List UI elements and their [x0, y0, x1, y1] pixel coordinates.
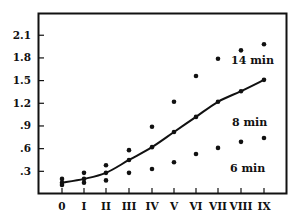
- data-point: [172, 99, 177, 104]
- data-point: [262, 42, 267, 47]
- data-point: [127, 171, 132, 176]
- x-tick-label: II: [101, 200, 111, 212]
- x-tick-label: 0: [58, 200, 65, 212]
- data-point: [150, 167, 155, 172]
- data-point: [104, 163, 109, 168]
- y-tick-label: 2.1: [13, 29, 31, 41]
- series-label: 6 min: [230, 162, 265, 175]
- data-point: [172, 160, 177, 165]
- data-point: [150, 145, 155, 150]
- x-axis: 0IIIIIIIVVVIVIIVIIIIX: [58, 188, 271, 212]
- series-labels: 14 min8 min6 min: [230, 54, 274, 175]
- x-tick-label: VII: [208, 200, 227, 212]
- data-point: [239, 48, 244, 53]
- y-tick-label: 1.2: [13, 97, 31, 109]
- y-tick-label: .9: [20, 119, 31, 131]
- data-point: [239, 89, 244, 94]
- data-point: [262, 136, 267, 141]
- series-label: 8 min: [232, 116, 267, 129]
- x-tick-label: V: [169, 200, 179, 212]
- data-point: [82, 180, 87, 185]
- data-point: [172, 130, 177, 135]
- data-point: [194, 152, 199, 157]
- data-point: [216, 99, 221, 104]
- x-tick-label: III: [122, 200, 137, 212]
- x-tick-label: I: [82, 200, 87, 212]
- data-point: [150, 124, 155, 129]
- y-tick-label: 1.8: [13, 51, 31, 63]
- chart: .3.6.91.21.51.82.1 0IIIIIIIVVVIVIIVIIIIX…: [0, 0, 299, 223]
- x-tick-label: IV: [145, 200, 159, 212]
- x-tick-label: VIII: [229, 200, 253, 212]
- x-tick-label: IX: [257, 200, 271, 212]
- data-point: [239, 140, 244, 145]
- data-point: [216, 56, 221, 61]
- data-point: [127, 148, 132, 153]
- y-tick-label: .3: [20, 165, 31, 177]
- data-point: [82, 171, 87, 176]
- y-tick-label: 1.5: [13, 74, 31, 86]
- data-point: [127, 158, 132, 163]
- data-point: [216, 146, 221, 151]
- series-label: 14 min: [231, 54, 274, 67]
- data-point: [104, 178, 109, 183]
- data-point: [104, 171, 109, 176]
- y-tick-label: .6: [20, 142, 31, 154]
- data-point: [262, 78, 267, 83]
- data-point: [194, 74, 199, 79]
- data-point: [60, 183, 65, 188]
- x-tick-label: VI: [188, 200, 202, 212]
- data-point: [194, 115, 199, 120]
